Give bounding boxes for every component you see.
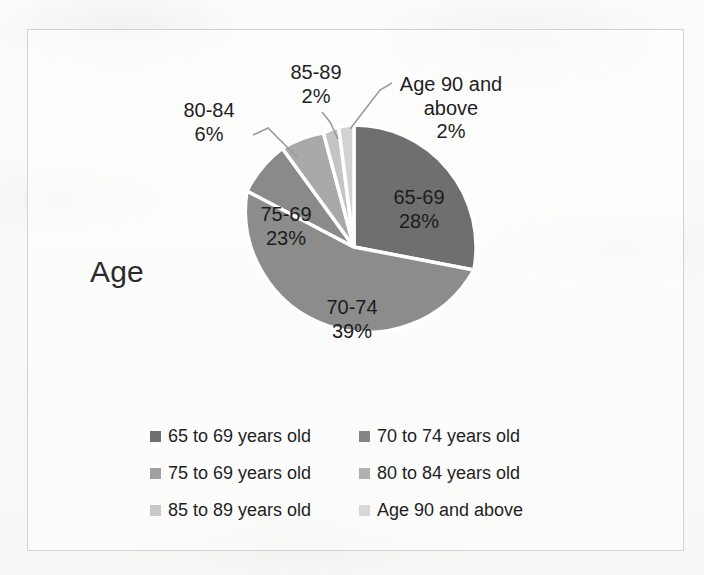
pie-label-age-90-and-above-percent: 2% (392, 120, 510, 144)
pie-label-70-74-percent: 39% (312, 320, 392, 344)
legend-item-70-to-74-years-old[interactable]: 70 to 74 years old (359, 426, 568, 447)
legend-swatch-icon-age-90-and-above (359, 505, 370, 516)
pie-label-80-84-percent: 6% (166, 123, 252, 147)
legend-label-85-to-89: 85 to 89 years old (168, 500, 311, 521)
pie-label-70-74-name: 70-74 (326, 296, 377, 318)
chart-legend: 65 to 69 years old 70 to 74 years old 75… (150, 418, 568, 529)
pie-label-85-89-percent: 2% (276, 85, 356, 109)
legend-item-80-to-84-years-old[interactable]: 80 to 84 years old (359, 463, 568, 484)
pie-label-65-69: 65-69 28% (379, 186, 459, 233)
legend-item-65-to-69-years-old[interactable]: 65 to 69 years old (150, 426, 359, 447)
legend-swatch-icon-75-to-69 (150, 468, 161, 479)
pie-label-65-69-name: 65-69 (393, 186, 444, 208)
legend-row: 85 to 89 years old Age 90 and above (150, 492, 568, 529)
pie-label-85-89-name: 85-89 (290, 61, 341, 83)
pie-label-75-69: 75-69 23% (246, 203, 326, 250)
legend-swatch-icon-80-to-84 (359, 468, 370, 479)
pie-label-80-84: 80-84 6% (166, 99, 252, 146)
pie-label-age-90-and-above-name: Age 90 and (400, 73, 502, 95)
legend-label-80-to-84: 80 to 84 years old (377, 463, 520, 484)
legend-label-65-to-69: 65 to 69 years old (168, 426, 311, 447)
pie-label-75-69-name: 75-69 (260, 203, 311, 225)
pie-label-80-84-name: 80-84 (183, 99, 234, 121)
pie-label-70-74: 70-74 39% (312, 296, 392, 343)
pie-label-age-90-and-above-name2: above (392, 97, 510, 121)
legend-row: 65 to 69 years old 70 to 74 years old (150, 418, 568, 455)
legend-item-age-90-and-above[interactable]: Age 90 and above (359, 500, 568, 521)
legend-item-75-to-69-years-old[interactable]: 75 to 69 years old (150, 463, 359, 484)
legend-swatch-icon-70-to-74 (359, 431, 370, 442)
pie-label-75-69-percent: 23% (246, 227, 326, 251)
legend-row: 75 to 69 years old 80 to 84 years old (150, 455, 568, 492)
pie-label-85-89: 85-89 2% (276, 61, 356, 108)
leader-line-age-90-and-above (350, 83, 392, 129)
legend-label-75-to-69: 75 to 69 years old (168, 463, 311, 484)
pie-label-65-69-percent: 28% (379, 210, 459, 234)
legend-swatch-icon-85-to-89 (150, 505, 161, 516)
legend-swatch-icon-65-to-69 (150, 431, 161, 442)
legend-label-age-90-and-above: Age 90 and above (377, 500, 523, 521)
legend-item-85-to-89-years-old[interactable]: 85 to 89 years old (150, 500, 359, 521)
legend-label-70-to-74: 70 to 74 years old (377, 426, 520, 447)
pie-label-age-90-and-above: Age 90 and above 2% (392, 73, 510, 144)
